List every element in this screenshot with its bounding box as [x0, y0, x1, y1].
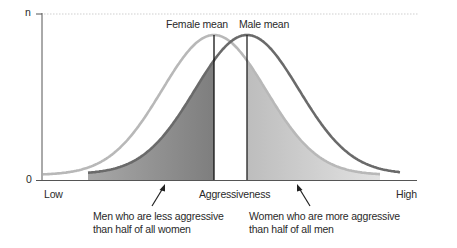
x-label-high: High — [396, 188, 417, 200]
annotation-left-line2: than half of all women — [93, 223, 224, 236]
arrow-right-icon — [297, 184, 310, 206]
female-mean-label: Female mean — [166, 18, 228, 30]
annotation-women-more-aggressive: Women who are more aggressive than half … — [249, 210, 400, 236]
y-tick-label-zero: 0 — [26, 173, 32, 185]
men-less-aggressive-region — [88, 60, 214, 180]
y-tick-label-n: n — [25, 6, 31, 18]
arrow-left-icon — [152, 184, 165, 206]
annotation-men-less-aggressive: Men who are less aggressive than half of… — [93, 210, 224, 236]
annotation-right-line2: than half of all men — [249, 223, 400, 236]
x-axis-title: Aggressiveness — [199, 188, 270, 200]
annotation-left-line1: Men who are less aggressive — [93, 210, 224, 223]
male-mean-label: Male mean — [239, 18, 289, 30]
x-label-low: Low — [44, 188, 63, 200]
annotation-right-line1: Women who are more aggressive — [249, 210, 400, 223]
